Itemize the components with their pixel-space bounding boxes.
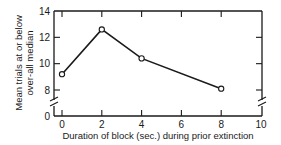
data-point-marker [59,72,64,77]
break-mark-icon [50,102,58,106]
y-tick-label: 14 [39,6,51,17]
x-tick-labels: 0246810 [59,119,267,130]
plot-frame [54,11,262,116]
y-tick-labels: 08101214 [39,6,51,122]
data-point-marker [139,56,144,61]
data-series [59,27,223,91]
x-tick-label: 0 [59,119,65,130]
x-tick-label: 8 [218,119,224,130]
y-tick-label: 8 [44,85,50,96]
x-tick-label: 2 [99,119,105,130]
break-mark-icon [258,102,266,106]
y-axis-title-line2: over-all median [24,31,35,96]
x-axis-title: Duration of block (sec.) during prior ex… [62,130,253,141]
x-tick-label: 6 [179,119,185,130]
x-tick-label: 10 [255,119,267,130]
y-tick-label: 0 [44,111,50,122]
data-point-marker [99,27,104,32]
y-axis-title-line1: Mean trials at or below [13,15,24,111]
data-point-marker [219,86,224,91]
axis-break-marks [50,97,266,106]
y-axis-title: Mean trials at or below over-all median [13,15,35,111]
line-chart: 0246810 08101214 Duration of block (sec.… [0,0,281,145]
y-tick-label: 12 [39,32,51,43]
x-tick-label: 4 [139,119,145,130]
axis-ticks [54,11,262,116]
y-tick-label: 10 [39,58,51,69]
